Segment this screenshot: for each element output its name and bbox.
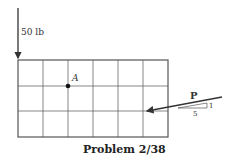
point-a-label: A: [72, 73, 79, 83]
caption: Problem 2/38: [83, 143, 166, 156]
diagram-canvas: [0, 0, 232, 164]
vertical-force-label: 50 lb: [21, 27, 44, 37]
slope-rise-label: 1: [209, 102, 213, 110]
grid: [18, 60, 168, 137]
slope-run-label: 5: [193, 110, 197, 118]
force-p-label: P: [190, 90, 198, 101]
point-a-dot: [66, 84, 71, 89]
